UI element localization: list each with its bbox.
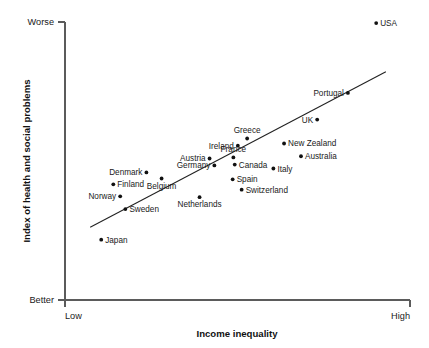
chart-canvas: Worse Better Low High Index of health an…: [0, 0, 429, 348]
data-point-marker: [374, 21, 378, 25]
data-point: Japan: [99, 236, 128, 245]
data-point-marker: [315, 118, 319, 122]
y-axis: [58, 22, 65, 300]
data-points-layer: USAPortugalUKGreeceNew ZealandIrelandFra…: [88, 19, 397, 245]
data-point-label: Switzerland: [246, 186, 289, 195]
data-point-label: Australia: [305, 152, 337, 161]
data-point: New Zealand: [282, 139, 337, 148]
scatter-chart: Worse Better Low High Index of health an…: [0, 0, 429, 348]
data-point-label: Spain: [237, 175, 258, 184]
x-axis-title: Income inequality: [196, 328, 278, 339]
data-point: Spain: [231, 175, 258, 184]
data-point-label: Portugal: [313, 89, 344, 98]
data-point-label: Netherlands: [177, 200, 221, 209]
data-point-marker: [212, 164, 216, 168]
data-point-marker: [231, 177, 235, 181]
data-point-marker: [208, 157, 212, 161]
data-point-marker: [123, 207, 127, 211]
data-point-marker: [299, 154, 303, 158]
data-point-label: New Zealand: [288, 139, 337, 148]
data-point: Italy: [271, 165, 293, 174]
data-point-label: Sweden: [129, 205, 159, 214]
data-point: Finland: [111, 180, 144, 189]
data-point: Norway: [88, 192, 122, 201]
y-axis-title: Index of health and social problems: [21, 79, 32, 242]
y-tick-label-worse: Worse: [28, 17, 54, 27]
data-point: Canada: [233, 161, 268, 170]
data-point: UK: [302, 116, 319, 125]
data-point-label: France: [221, 145, 247, 154]
data-point-marker: [233, 163, 237, 167]
data-point: Greece: [234, 126, 261, 140]
data-point-marker: [111, 182, 115, 186]
data-point-label: Denmark: [109, 168, 143, 177]
data-point: Sweden: [123, 205, 159, 214]
data-point-label: Canada: [239, 161, 268, 170]
data-point: Australia: [299, 152, 337, 161]
data-point: Belgium: [147, 177, 177, 191]
data-point-label: Italy: [277, 165, 293, 174]
data-point-marker: [271, 167, 275, 171]
data-point-label: Germany: [177, 161, 212, 170]
data-point-label: Greece: [234, 126, 261, 135]
y-tick-label-better: Better: [29, 295, 54, 305]
data-point: Switzerland: [240, 186, 289, 195]
data-point-marker: [282, 142, 286, 146]
data-point-label: Finland: [117, 180, 144, 189]
data-point-marker: [198, 195, 202, 199]
data-point-label: Japan: [105, 236, 128, 245]
data-point-marker: [145, 170, 149, 174]
data-point-label: Norway: [88, 192, 117, 201]
x-tick-label-high: High: [391, 311, 410, 321]
data-point-marker: [240, 188, 244, 192]
data-point: Netherlands: [177, 195, 221, 209]
data-point: Germany: [177, 161, 217, 170]
data-point-label: Belgium: [147, 182, 177, 191]
x-axis: [65, 300, 410, 307]
data-point-marker: [231, 155, 235, 159]
data-point-marker: [118, 194, 122, 198]
data-point: Denmark: [109, 168, 148, 177]
data-point: France: [221, 145, 247, 159]
data-point-label: USA: [380, 19, 397, 28]
x-tick-label-low: Low: [65, 311, 82, 321]
data-point-marker: [245, 137, 249, 141]
data-point-marker: [160, 177, 164, 181]
data-point-marker: [346, 91, 350, 95]
data-point: USA: [374, 19, 397, 28]
data-point-label: UK: [302, 116, 314, 125]
data-point-marker: [99, 238, 103, 242]
